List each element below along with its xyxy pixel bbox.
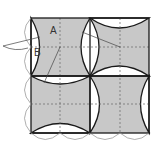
geometry-diagram: A B [0, 0, 159, 151]
label-b: B [34, 47, 41, 58]
label-a: A [50, 25, 57, 36]
